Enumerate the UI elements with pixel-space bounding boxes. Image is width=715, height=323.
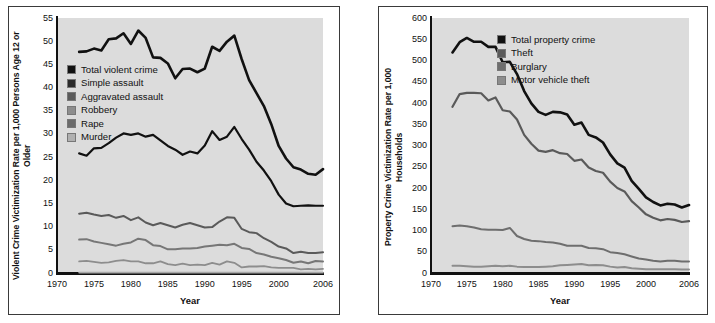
legend-swatch-icon: [67, 65, 76, 74]
legend-label: Theft: [511, 48, 533, 58]
legend-right: Total property crimeTheftBurglaryMotor v…: [497, 33, 595, 87]
legend-swatch-icon: [67, 106, 76, 115]
legend-swatch-icon: [497, 62, 506, 71]
legend-swatch-icon: [67, 119, 76, 128]
chart-panel-property-crime: Property Crime Victimization Rate per 1,…: [378, 6, 708, 315]
legend-item[interactable]: Total violent crime: [67, 63, 163, 77]
legend-item[interactable]: Rape: [67, 117, 163, 131]
legend-item[interactable]: Aggravated assault: [67, 90, 163, 104]
series-line: [79, 239, 323, 264]
series-line: [453, 225, 690, 261]
legend-item[interactable]: Motor vehicle theft: [497, 74, 595, 88]
legend-label: Simple assault: [81, 78, 143, 88]
legend-label: Total property crime: [511, 35, 595, 45]
figure-root: Violent Crime Victimization Rate per 1,0…: [0, 0, 715, 323]
legend-swatch-icon: [67, 133, 76, 142]
legend-label: Total violent crime: [81, 65, 158, 75]
legend-item[interactable]: Total property crime: [497, 33, 595, 47]
series-lines-left: [9, 7, 341, 316]
legend-label: Robbery: [81, 105, 117, 115]
series-line: [453, 264, 690, 270]
legend-swatch-icon: [67, 79, 76, 88]
legend-swatch-icon: [497, 49, 506, 58]
legend-label: Rape: [81, 119, 104, 129]
legend-swatch-icon: [497, 76, 506, 85]
legend-left: Total violent crimeSimple assaultAggrava…: [67, 63, 163, 144]
legend-item[interactable]: Simple assault: [67, 77, 163, 91]
chart-panel-violent-crime: Violent Crime Victimization Rate per 1,0…: [8, 6, 340, 315]
legend-label: Motor vehicle theft: [511, 75, 589, 85]
x-axis-title-left: Year: [57, 295, 323, 306]
legend-item[interactable]: Theft: [497, 47, 595, 61]
legend-label: Burglary: [511, 62, 547, 72]
legend-label: Aggravated assault: [81, 92, 163, 102]
legend-item[interactable]: Robbery: [67, 104, 163, 118]
legend-swatch-icon: [497, 35, 506, 44]
series-line: [79, 260, 323, 269]
legend-swatch-icon: [67, 92, 76, 101]
legend-item[interactable]: Burglary: [497, 60, 595, 74]
legend-label: Murder: [81, 132, 111, 142]
x-axis-title-right: Year: [431, 295, 689, 306]
legend-item[interactable]: Murder: [67, 131, 163, 145]
